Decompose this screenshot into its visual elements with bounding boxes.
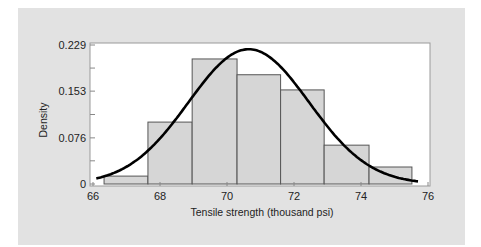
y-axis-title: Density bbox=[37, 102, 49, 138]
x-tick-label: 76 bbox=[422, 190, 434, 202]
x-tick-label: 70 bbox=[221, 190, 233, 202]
y-tick-label: 0.076 bbox=[58, 132, 86, 144]
histogram-bar bbox=[104, 176, 148, 184]
x-tick-label: 74 bbox=[355, 190, 367, 202]
histogram-bar bbox=[148, 122, 192, 184]
x-tick-label: 72 bbox=[288, 190, 300, 202]
y-tick-label: 0.153 bbox=[58, 85, 86, 97]
x-axis-title: Tensile strength (thousand psi) bbox=[191, 206, 334, 218]
y-tick-label: 0.229 bbox=[58, 39, 86, 51]
histogram-bar bbox=[237, 75, 281, 184]
histogram-chart: 666870727476 00.0760.1530.229 Tensile st… bbox=[0, 0, 481, 247]
x-tick-label: 66 bbox=[87, 190, 99, 202]
histogram-bar bbox=[281, 90, 325, 184]
y-tick-label: 0 bbox=[80, 178, 86, 190]
histogram-bar bbox=[324, 145, 369, 184]
x-tick-label: 68 bbox=[154, 190, 166, 202]
histogram-bar bbox=[192, 59, 237, 184]
